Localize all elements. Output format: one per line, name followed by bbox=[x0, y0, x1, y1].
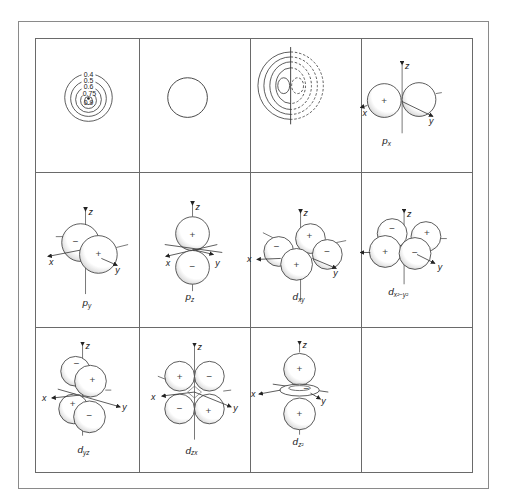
lobe-sign: − bbox=[177, 403, 183, 414]
cell-p-contour bbox=[251, 39, 362, 173]
lobe-sign: + bbox=[89, 374, 95, 385]
x-axis-label: x bbox=[246, 254, 252, 264]
lobe-sign: + bbox=[205, 405, 211, 416]
lobe-sign: − bbox=[73, 236, 79, 247]
contour-label-4: 0.9 bbox=[84, 99, 94, 106]
x-axis-label: x bbox=[165, 258, 171, 268]
cell-dz2: z + − + x y dz² bbox=[251, 328, 362, 472]
s-contour-plot: 0.4 0.5 0.6 0.75 0.9 bbox=[36, 39, 139, 172]
z-axis-label: z bbox=[303, 208, 309, 218]
cell-s-contour: 0.4 0.5 0.6 0.75 0.9 bbox=[36, 39, 140, 173]
y-axis-label: y bbox=[114, 265, 120, 275]
y-axis-label: y bbox=[232, 403, 238, 413]
p-contour-plot bbox=[251, 39, 361, 172]
dzx-orbital: z + − − + x y dzx bbox=[140, 328, 250, 472]
z-axis-label: z bbox=[196, 342, 202, 352]
lobe-sign: + bbox=[297, 408, 303, 419]
cell-py: z − + x y py bbox=[36, 173, 140, 328]
lobe-sign: + bbox=[381, 95, 387, 106]
orbital-label: dxy bbox=[293, 291, 306, 304]
orbital-label: dz² bbox=[293, 436, 305, 448]
z-axis-label: z bbox=[85, 341, 91, 351]
lobe-sign: − bbox=[304, 383, 310, 394]
lobe-sign: − bbox=[389, 223, 395, 234]
lobe-sign: − bbox=[274, 241, 280, 252]
cell-dyz: z − + + − x y dyz bbox=[36, 328, 140, 472]
lobe-sign: − bbox=[206, 371, 212, 382]
dxy-orbital: z − + + − x y dxy bbox=[251, 173, 361, 327]
lobe-sign: − bbox=[87, 410, 93, 421]
lobe-sign: + bbox=[95, 248, 101, 259]
cell-px: z + x y px bbox=[362, 39, 472, 173]
lobe-sign: + bbox=[177, 371, 183, 382]
cell-dx2y2: z − + + − y dx²−y² bbox=[362, 173, 472, 328]
lobe-sign: + bbox=[297, 363, 303, 374]
y-axis-label: y bbox=[214, 258, 220, 268]
x-axis-label: x bbox=[150, 392, 156, 402]
orbital-label: dyz bbox=[78, 444, 91, 457]
dz2-orbital: z + − + x y dz² bbox=[251, 328, 361, 472]
cell-empty bbox=[362, 328, 472, 472]
cell-pz: z + − x y pz bbox=[140, 173, 251, 328]
z-axis-label: z bbox=[87, 207, 93, 217]
y-axis-label: y bbox=[332, 268, 338, 278]
lobe-sign: + bbox=[70, 398, 76, 409]
dx2-y2-orbital: z − + + − y dx²−y² bbox=[362, 173, 472, 327]
y-axis-label: y bbox=[428, 116, 434, 126]
orbital-label: dx²−y² bbox=[388, 286, 409, 299]
pz-orbital: z + − x y pz bbox=[140, 173, 250, 327]
orbital-label: pz bbox=[185, 291, 196, 303]
x-axis-label: x bbox=[41, 393, 47, 403]
cell-dzx: z + − − + x y dzx bbox=[140, 328, 251, 472]
orbital-label: px bbox=[381, 135, 392, 147]
px-orbital: z + x y px bbox=[362, 39, 472, 172]
lobe-sign: + bbox=[294, 259, 300, 270]
cell-dxy: z − + + − x y dxy bbox=[251, 173, 362, 328]
lobe-sign: + bbox=[382, 246, 388, 257]
contour-label-3: 0.75 bbox=[83, 90, 97, 97]
x-axis-label: x bbox=[361, 108, 367, 118]
s-boundary-circle bbox=[140, 39, 250, 172]
y-axis-label: y bbox=[437, 262, 443, 272]
orbital-label: py bbox=[82, 297, 93, 310]
lobe-sign: − bbox=[74, 358, 80, 369]
lobe-sign: − bbox=[190, 261, 196, 272]
py-orbital: z − + x y py bbox=[36, 173, 139, 327]
orbital-label: dzx bbox=[186, 445, 199, 457]
z-axis-label: z bbox=[406, 209, 412, 219]
x-axis-label: x bbox=[250, 389, 256, 399]
orbital-grid: 0.4 0.5 0.6 0.75 0.9 bbox=[35, 38, 473, 473]
z-axis-label: z bbox=[404, 61, 410, 71]
lobe-sign: + bbox=[306, 230, 312, 241]
dyz-orbital: z − + + − x y dyz bbox=[36, 328, 139, 472]
lobe-sign: − bbox=[324, 246, 330, 257]
lobe-sign: + bbox=[190, 229, 196, 240]
lobe-sign: + bbox=[424, 227, 430, 238]
cell-s-boundary bbox=[140, 39, 251, 173]
y-axis-label: y bbox=[121, 402, 127, 412]
lobe-sign: − bbox=[412, 247, 418, 258]
contour-label-2: 0.6 bbox=[84, 83, 94, 90]
x-axis-label: x bbox=[48, 257, 54, 267]
z-axis-label: z bbox=[194, 202, 200, 212]
z-axis-label: z bbox=[302, 340, 308, 350]
y-axis-label: y bbox=[320, 396, 326, 406]
